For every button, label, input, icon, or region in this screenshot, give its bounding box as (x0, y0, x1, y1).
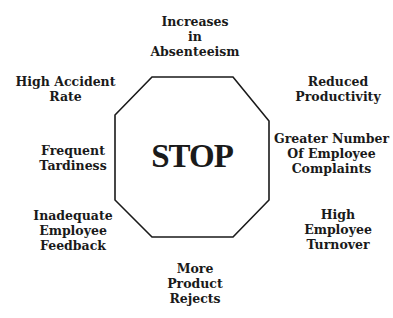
label-greater-complaints: Greater Number Of Employee Complaints (270, 131, 393, 176)
stop-text: STOP (115, 138, 269, 175)
label-reduced-productivity: Reduced Productivity (283, 74, 393, 104)
label-high-accident-rate: High Accident Rate (8, 74, 123, 104)
label-frequent-tardiness: Frequent Tardiness (18, 143, 128, 173)
label-high-turnover: High Employee Turnover (283, 207, 393, 252)
label-more-product-rejects: More Product Rejects (140, 261, 250, 306)
label-inadequate-feedback: Inadequate Employee Feedback (18, 208, 128, 253)
label-increases-absenteeism: Increases in Absenteeism (140, 14, 250, 59)
